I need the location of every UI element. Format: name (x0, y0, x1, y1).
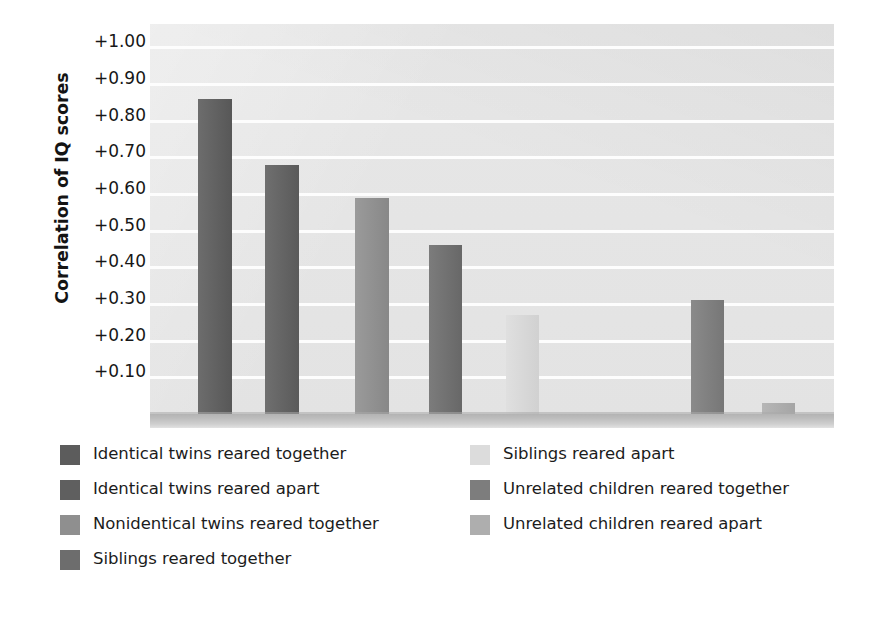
legend-item-label: Siblings reared together (93, 551, 291, 568)
y-axis-tick-labels: +1.00+0.90+0.80+0.70+0.60+0.50+0.40+0.30… (74, 24, 146, 417)
legend-item: Siblings reared apart (470, 437, 870, 472)
y-axis-tick-label: +0.10 (74, 363, 146, 380)
y-axis-tick-label: +0.20 (74, 327, 146, 344)
legend-swatch-icon (470, 445, 490, 465)
bar-shading (265, 165, 299, 414)
legend-item-label: Identical twins reared apart (93, 481, 319, 498)
iq-correlation-bar-chart-figure: Correlation of IQ scores +1.00+0.90+0.80… (0, 0, 883, 621)
legend-column-right: Siblings reared apartUnrelated children … (470, 437, 870, 542)
bar-shading (691, 300, 724, 414)
legend-item: Nonidentical twins reared together (60, 507, 480, 542)
legend-swatch-icon (60, 480, 80, 500)
bar-shading (506, 315, 539, 414)
legend-item: Siblings reared together (60, 542, 480, 577)
y-axis-tick-label: +0.40 (74, 253, 146, 270)
legend: Identical twins reared togetherIdentical… (60, 437, 870, 597)
legend-item: Unrelated children reared apart (470, 507, 870, 542)
y-axis-tick-label: +0.70 (74, 143, 146, 160)
bar (265, 165, 299, 414)
y-axis-tick-label: +0.60 (74, 180, 146, 197)
legend-swatch-icon (470, 515, 490, 535)
legend-item-label: Siblings reared apart (503, 446, 674, 463)
plot-area (150, 24, 834, 417)
y-axis-tick-label: +0.30 (74, 290, 146, 307)
legend-item-label: Identical twins reared together (93, 446, 346, 463)
legend-column-left: Identical twins reared togetherIdentical… (60, 437, 480, 577)
y-axis-tick-label: +0.90 (74, 70, 146, 87)
legend-swatch-icon (60, 550, 80, 570)
legend-swatch-icon (60, 515, 80, 535)
bar (506, 315, 539, 414)
bar-shading (355, 198, 389, 414)
bar (355, 198, 389, 414)
legend-item: Identical twins reared together (60, 437, 480, 472)
y-axis-tick-label: +0.50 (74, 217, 146, 234)
legend-item-label: Unrelated children reared together (503, 481, 789, 498)
legend-item-label: Unrelated children reared apart (503, 516, 762, 533)
y-axis-title: Correlation of IQ scores (52, 38, 72, 338)
bar-shading (429, 245, 462, 414)
y-axis-tick-label: +1.00 (74, 33, 146, 50)
plot-baseline-shadow (150, 414, 834, 428)
legend-swatch-icon (60, 445, 80, 465)
bar (691, 300, 724, 414)
y-axis-tick-label: +0.80 (74, 107, 146, 124)
legend-swatch-icon (470, 480, 490, 500)
legend-item-label: Nonidentical twins reared together (93, 516, 379, 533)
legend-item: Identical twins reared apart (60, 472, 480, 507)
bar (198, 99, 232, 414)
legend-item: Unrelated children reared together (470, 472, 870, 507)
bar-shading (198, 99, 232, 414)
bar (429, 245, 462, 414)
bars-layer (150, 24, 834, 417)
